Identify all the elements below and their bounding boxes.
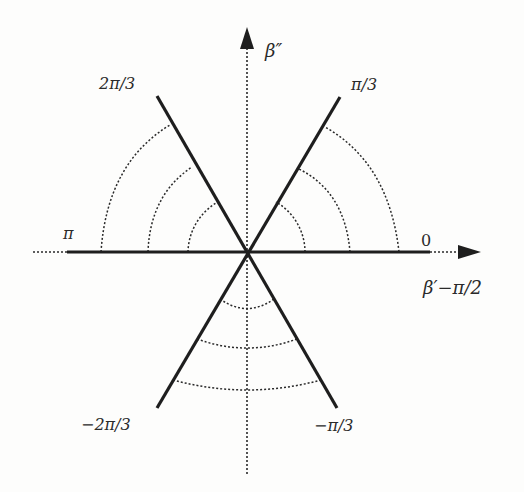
horizontal-axis-arrow-icon bbox=[458, 245, 481, 259]
right-sector-contour-1 bbox=[276, 202, 305, 252]
label-beta-double-prime: β″ bbox=[265, 42, 282, 60]
vertical-axis-arrow-icon bbox=[240, 27, 254, 49]
label-zero: 0 bbox=[421, 233, 431, 249]
label-two-pi-over-3: 2π/3 bbox=[99, 76, 135, 92]
label-pi: π bbox=[63, 226, 74, 242]
label-minus-two-pi-over-3: −2π/3 bbox=[81, 417, 131, 433]
right-sector-contour-3 bbox=[325, 127, 399, 252]
left-sector-contour-2 bbox=[148, 167, 192, 252]
label-minus-pi-over-3: −π/3 bbox=[314, 418, 354, 434]
diagram-canvas: β″ 2π/3 π/3 π 0 β′−π/2 −2π/3 −π/3 bbox=[0, 0, 524, 492]
label-pi-over-3: π/3 bbox=[351, 77, 377, 93]
label-beta-prime-minus-pi-half: β′−π/2 bbox=[423, 279, 482, 297]
left-sector-contour-3 bbox=[101, 125, 170, 252]
angular-sector-diagram bbox=[0, 0, 524, 492]
right-sector-contour-2 bbox=[299, 169, 350, 252]
left-sector-contour-1 bbox=[188, 203, 216, 252]
